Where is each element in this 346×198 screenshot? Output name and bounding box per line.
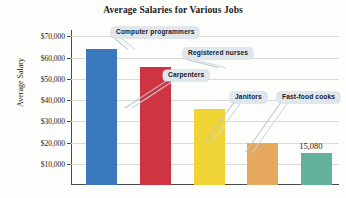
- callout-computer-programmers: Computer programmers: [111, 27, 199, 38]
- bar-fast-food-cooks: [301, 153, 332, 185]
- y-axis-tick: [67, 121, 71, 122]
- chart-figure: Average Salaries for Various Jobs Averag…: [0, 0, 346, 198]
- bar-janitors: [247, 143, 278, 185]
- y-axis-tick: [67, 143, 71, 144]
- callout-registered-nurses: Registered nurses: [183, 48, 253, 59]
- y-axis-label: Average Salary: [16, 43, 25, 123]
- y-axis-tick-label: $70,000: [41, 32, 65, 41]
- y-axis-tick: [67, 164, 71, 165]
- y-axis-tick: [67, 58, 71, 59]
- y-axis-tick-label: $60,000: [41, 53, 65, 62]
- chart-title: Average Salaries for Various Jobs: [0, 5, 346, 15]
- y-axis-tick: [67, 79, 71, 80]
- y-axis-line: [71, 30, 72, 185]
- callout-carpenters: Carpenters: [163, 70, 209, 81]
- data-label-fast-food-cooks: 15,080: [299, 141, 322, 151]
- y-axis-tick-label: $20,000: [41, 138, 65, 147]
- y-axis-tick-label: $50,000: [41, 74, 65, 83]
- y-axis-tick: [67, 100, 71, 101]
- y-axis-tick: [67, 36, 71, 37]
- y-axis-tick-label: $10,000: [41, 159, 65, 168]
- y-axis-tick-label: $30,000: [41, 117, 65, 126]
- y-axis-tick-label: $40,000: [41, 96, 65, 105]
- callout-janitors: Janitors: [230, 92, 267, 103]
- bar-computer-programmers: [86, 49, 117, 185]
